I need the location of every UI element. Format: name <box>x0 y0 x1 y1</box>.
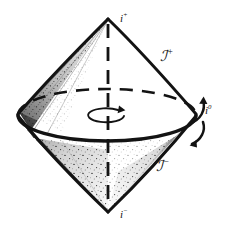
label-i-minus-superscript: − <box>123 207 128 214</box>
future-null-infinity-edge <box>108 19 196 114</box>
label-future-null-infinity: ℐ+ <box>160 48 173 64</box>
conformal-diagram-figure: i+ i− i0 ℐ+ ℐ− <box>0 0 237 240</box>
label-i-plus-superscript: + <box>123 11 128 18</box>
double-cone-drawing <box>0 0 237 240</box>
label-scri-plus-base: ℐ <box>160 48 167 64</box>
label-future-timelike-infinity: i+ <box>120 12 128 24</box>
label-scri-minus-superscript: − <box>163 157 169 167</box>
label-scri-minus-base: ℐ <box>156 158 163 174</box>
upper-cone-stipple <box>19 19 108 132</box>
label-past-null-infinity: ℐ− <box>156 158 169 174</box>
label-i-zero-superscript: 0 <box>208 103 211 110</box>
label-scri-plus-superscript: + <box>167 47 173 57</box>
label-spatial-infinity: i0 <box>205 104 211 116</box>
lower-face-stipple <box>40 140 170 212</box>
label-past-timelike-infinity: i− <box>120 208 128 220</box>
